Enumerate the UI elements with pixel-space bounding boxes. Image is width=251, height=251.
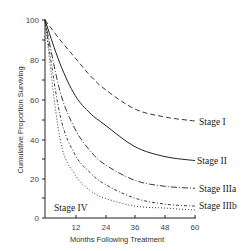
y-tick-label: 80 <box>30 56 39 65</box>
x-tick-label: 60 <box>191 223 200 232</box>
series-label-stage-3a: Stage IIIa <box>199 184 237 194</box>
x-tick-label: 48 <box>161 223 170 232</box>
curve-stage-i <box>45 20 195 121</box>
curve-stage-iiib <box>45 20 195 206</box>
y-axis-title: Cumulative Proportion Surviving <box>16 66 25 173</box>
series-label-stage-2: Stage II <box>197 156 227 166</box>
y-tick-label: 40 <box>30 136 39 145</box>
y-tick-label: 100 <box>26 16 40 25</box>
x-tick-label: 36 <box>131 223 140 232</box>
x-tick-label: 24 <box>102 223 111 232</box>
survival-curves <box>45 20 195 210</box>
curve-stage-iiia <box>45 20 195 188</box>
series-label-stage-1: Stage I <box>199 117 226 127</box>
series-label-stage-3b: Stage IIIb <box>199 201 237 211</box>
x-axis-title: Months Following Treatment <box>70 235 165 244</box>
series-label-stage-4: Stage IV <box>54 203 88 213</box>
y-tick-label: 60 <box>30 96 39 105</box>
y-tick-label: 0 <box>35 214 40 223</box>
survival-chart: 0 20 40 60 80 100 12 24 36 48 60 Months … <box>0 0 251 251</box>
axes <box>42 19 196 218</box>
x-tick-label: 12 <box>72 223 81 232</box>
y-tick-label: 20 <box>30 175 39 184</box>
